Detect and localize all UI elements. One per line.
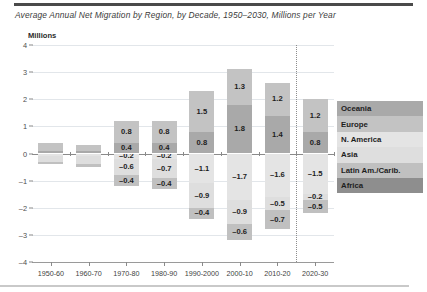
gridline--4 <box>32 262 334 263</box>
zero-axis-tick-mark <box>221 152 222 156</box>
bar-segment: –1.6 <box>265 154 290 197</box>
bar-column <box>76 45 101 262</box>
bar-column: 0.40.8–0.2–0.6–0.4 <box>114 45 139 262</box>
y-axis-tick-label: –4 <box>19 258 27 267</box>
bar-segment: –1.7 <box>227 154 252 200</box>
y-axis-tick-mark <box>29 126 33 127</box>
bar-segment <box>38 143 63 151</box>
legend-item-europe: Europe <box>337 116 423 131</box>
x-axis-tick-label: 1990-2000 <box>185 269 219 278</box>
y-axis-tick-label: –1 <box>19 176 27 185</box>
bar-segment: 1.8 <box>227 105 252 154</box>
y-axis-tick-label: –3 <box>19 230 27 239</box>
bar-segment: –0.6 <box>114 159 139 175</box>
bar-segment: –0.5 <box>303 200 328 214</box>
y-axis-tick-label: 1 <box>23 122 27 131</box>
x-axis-tick-mark <box>240 262 241 266</box>
bar-segment: 1.2 <box>303 99 328 132</box>
bar-segment <box>76 164 101 167</box>
y-axis-tick-mark <box>29 234 33 235</box>
bar-segment: 1.2 <box>265 83 290 116</box>
bar-segment: 1.5 <box>189 91 214 132</box>
legend-item-africa: Africa <box>337 178 423 193</box>
x-axis-tick-label: 1950-60 <box>38 269 64 278</box>
y-axis-tick-label: –2 <box>19 203 27 212</box>
top-divider <box>14 3 413 6</box>
y-axis-tick-mark <box>29 153 33 154</box>
bar-segment: 1.4 <box>265 116 290 154</box>
bar-segment: 0.8 <box>114 121 139 143</box>
x-axis-tick-label: 2000-10 <box>226 269 252 278</box>
y-axis-tick-label: 3 <box>23 68 27 77</box>
plot-area: 43210–1–2–3–41950-601960-700.40.8–0.2–0.… <box>32 45 334 262</box>
x-axis-tick-mark <box>164 262 165 266</box>
bar-segment: –0.5 <box>265 197 290 211</box>
x-axis-tick-mark <box>277 262 278 266</box>
y-axis-tick-mark <box>29 45 33 46</box>
bar-segment: 0.8 <box>189 132 214 154</box>
bar-segment: 0.8 <box>303 132 328 154</box>
x-axis-tick-label: 2010-20 <box>264 269 290 278</box>
x-axis-tick-label: 1970-80 <box>113 269 139 278</box>
chart-legend: OceaniaEuropeN. AmericaAsiaLatin Am./Car… <box>337 101 423 193</box>
bar-segment: –0.9 <box>189 183 214 207</box>
bar-segment: 0.4 <box>152 143 177 154</box>
x-axis-tick-mark <box>51 262 52 266</box>
bar-segment: –0.7 <box>152 159 177 178</box>
zero-axis-tick-mark <box>183 152 184 156</box>
bar-segment: –0.4 <box>189 208 214 219</box>
bar-segment <box>38 162 63 165</box>
zero-axis-tick-mark <box>145 152 146 156</box>
bottom-divider <box>0 285 409 287</box>
y-axis-tick-mark <box>29 207 33 208</box>
bar-segment <box>76 156 101 164</box>
legend-item-oceania: Oceania <box>337 101 423 116</box>
bar-column <box>38 45 63 262</box>
y-axis-unit-label: Millions <box>28 31 56 40</box>
zero-axis-tick-mark <box>108 152 109 156</box>
y-axis-tick-mark <box>29 72 33 73</box>
legend-item-latin-am-carib: Latin Am./Carib. <box>337 163 423 178</box>
bar-segment: –1.5 <box>303 154 328 195</box>
bar-segment <box>76 145 101 150</box>
y-axis-tick-mark <box>29 180 33 181</box>
y-axis-tick-label: 2 <box>23 95 27 104</box>
x-axis-tick-label: 2020-30 <box>302 269 328 278</box>
y-axis-tick-mark <box>29 99 33 100</box>
bar-segment: –0.9 <box>227 200 252 224</box>
chart-title: Average Annual Net Migration by Region, … <box>15 10 415 20</box>
bar-column: 1.41.2–1.6–0.5–0.7 <box>265 45 290 262</box>
y-axis-tick-label: 0 <box>23 149 27 158</box>
bar-column: 0.81.5–1.1–0.9–0.4 <box>189 45 214 262</box>
x-axis-tick-label: 1960-70 <box>75 269 101 278</box>
bar-segment: 0.8 <box>152 121 177 143</box>
bar-segment: 1.3 <box>227 69 252 104</box>
x-axis-tick-mark <box>126 262 127 266</box>
bar-segment: –0.6 <box>227 224 252 240</box>
bar-segment: –0.7 <box>265 210 290 229</box>
x-axis-tick-label: 1980-90 <box>151 269 177 278</box>
y-axis-tick-label: 4 <box>23 41 27 50</box>
bar-column: 0.81.2–1.5–0.2–0.5 <box>303 45 328 262</box>
bar-column: 0.40.8–0.2–0.7–0.4 <box>152 45 177 262</box>
legend-item-n-america: N. America <box>337 132 423 147</box>
x-axis-tick-mark <box>89 262 90 266</box>
x-axis-tick-mark <box>202 262 203 266</box>
chart-figure: Average Annual Net Migration by Region, … <box>0 0 427 292</box>
zero-axis-tick-mark <box>334 152 335 156</box>
x-axis-tick-mark <box>315 262 316 266</box>
bar-segment: –1.1 <box>189 154 214 184</box>
bar-segment: –0.4 <box>152 178 177 189</box>
bar-segment: 0.4 <box>114 143 139 154</box>
bar-segment: –0.4 <box>114 175 139 186</box>
zero-axis-tick-mark <box>70 152 71 156</box>
bar-column: 1.81.3–1.7–0.9–0.6 <box>227 45 252 262</box>
zero-axis-tick-mark <box>259 152 260 156</box>
legend-item-asia: Asia <box>337 147 423 162</box>
projection-divider-line <box>296 45 297 262</box>
y-axis-tick-mark <box>29 262 33 263</box>
